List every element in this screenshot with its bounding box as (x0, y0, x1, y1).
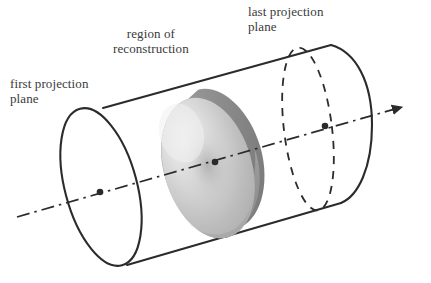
marker-dot-reconstruction-center (212, 159, 219, 166)
label-first-projection-plane: first projection plane (10, 76, 89, 106)
label-region-of-reconstruction: region of reconstruction (113, 26, 189, 56)
first-projection-plane-ellipse (45, 99, 156, 274)
last-projection-plane-ellipse (274, 45, 342, 214)
marker-dot-last-plane (322, 123, 329, 130)
cylinder-diagram (0, 0, 431, 283)
figure-page: { "figure": { "title": "Cone-beam tomogr… (0, 0, 431, 283)
marker-dot-first-plane (97, 189, 104, 196)
label-last-projection-plane: last projection plane (248, 4, 324, 34)
far-cap-arc (331, 45, 372, 203)
